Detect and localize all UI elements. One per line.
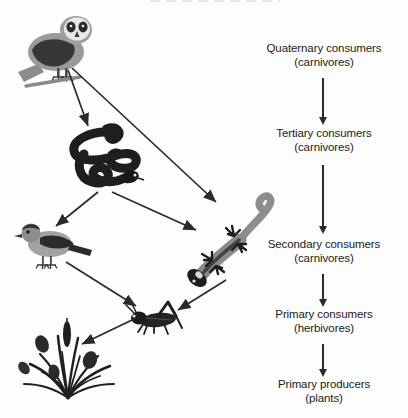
grasshopper-illustration bbox=[124, 296, 190, 338]
level-label-tertiary: Tertiary consumers (carnivores) bbox=[244, 127, 404, 154]
level-paren-text: (carnivores) bbox=[244, 141, 404, 155]
owl-illustration bbox=[10, 8, 102, 92]
level-main-text: Tertiary consumers bbox=[244, 127, 404, 141]
level-paren-text: (herbivores) bbox=[244, 322, 404, 336]
level-main-text: Primary consumers bbox=[244, 308, 404, 322]
level-label-primary-consumers: Primary consumers (herbivores) bbox=[244, 308, 404, 335]
cropped-caption-remnant bbox=[150, 0, 280, 2]
arrow-tertiary-to-secondary bbox=[322, 165, 324, 227]
food-chain-diagram: Quaternary consumers (carnivores) Tertia… bbox=[0, 0, 408, 418]
level-paren-text: (carnivores) bbox=[244, 56, 404, 70]
level-label-secondary: Secondary consumers (carnivores) bbox=[244, 238, 404, 265]
arrow-primary-consumers-to-producers bbox=[322, 344, 324, 370]
plants-illustration bbox=[18, 318, 118, 402]
level-main-text: Primary producers bbox=[244, 378, 404, 392]
arrow-quaternary-to-tertiary bbox=[322, 78, 324, 118]
level-paren-text: (plants) bbox=[244, 392, 404, 406]
songbird-illustration bbox=[12, 216, 98, 280]
arrow-secondary-to-primary-consumers bbox=[322, 274, 324, 300]
level-main-text: Secondary consumers bbox=[244, 238, 404, 252]
level-label-quaternary: Quaternary consumers (carnivores) bbox=[244, 42, 404, 69]
level-main-text: Quaternary consumers bbox=[244, 42, 404, 56]
level-label-primary-producers: Primary producers (plants) bbox=[244, 378, 404, 405]
snake-illustration bbox=[62, 120, 154, 200]
level-paren-text: (carnivores) bbox=[244, 252, 404, 266]
